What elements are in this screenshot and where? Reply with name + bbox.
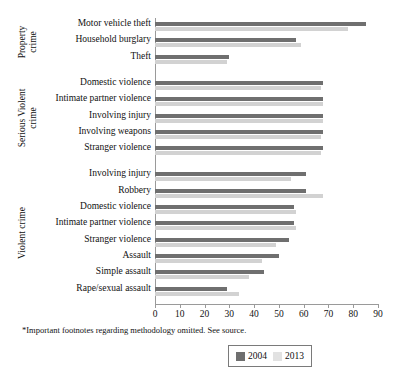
bar-2013 <box>155 60 227 64</box>
bar-row <box>155 36 378 52</box>
bar-2013 <box>155 43 301 47</box>
bar-row <box>155 144 378 160</box>
x-tick <box>254 304 255 308</box>
x-tick <box>180 304 181 308</box>
bar-row <box>155 170 378 186</box>
bar-row <box>155 20 378 36</box>
category-label: Involving injury <box>0 168 151 179</box>
group-label-line: crime <box>28 73 39 163</box>
x-tick-label: 80 <box>343 309 363 319</box>
bar-2004 <box>155 55 229 59</box>
bar-row <box>155 112 378 128</box>
bar-2013 <box>155 194 323 198</box>
bar-2004 <box>155 172 306 176</box>
x-tick-label: 20 <box>195 309 215 319</box>
bar-2013 <box>155 86 321 90</box>
bar-row <box>155 187 378 203</box>
bar-2013 <box>155 275 249 279</box>
bar-2004 <box>155 270 264 274</box>
legend-label-2013: 2013 <box>285 351 304 361</box>
legend-item-2004: 2004 <box>236 351 267 361</box>
bar-2013 <box>155 292 239 296</box>
bar-2013 <box>155 177 291 181</box>
x-tick <box>155 304 156 308</box>
footnote: *Important footnotes regarding methodolo… <box>22 325 246 335</box>
bar-2004 <box>155 114 323 118</box>
x-tick-label: 30 <box>219 309 239 319</box>
x-tick-label: 90 <box>368 309 388 319</box>
bar-row <box>155 53 378 69</box>
x-tick-label: 60 <box>294 309 314 319</box>
category-label: Rape/sexual assault <box>0 283 151 294</box>
chart-figure: Motor vehicle theftHousehold burglaryThe… <box>0 0 403 381</box>
x-tick <box>378 304 379 308</box>
bar-2013 <box>155 102 323 106</box>
x-tick-label: 0 <box>145 309 165 319</box>
bar-2013 <box>155 27 348 31</box>
bar-2004 <box>155 97 323 101</box>
legend: 2004 2013 <box>228 345 312 367</box>
x-tick <box>353 304 354 308</box>
group-label-line: Violent crime <box>17 188 28 278</box>
bar-2004 <box>155 254 279 258</box>
x-tick <box>328 304 329 308</box>
legend-label-2004: 2004 <box>248 351 267 361</box>
x-tick <box>304 304 305 308</box>
bar-2013 <box>155 226 296 230</box>
x-tick <box>205 304 206 308</box>
x-tick <box>279 304 280 308</box>
x-tick <box>229 304 230 308</box>
bar-2004 <box>155 189 306 193</box>
bar-2004 <box>155 238 289 242</box>
group-label-line: Serious Violent <box>17 73 28 163</box>
bar-2013 <box>155 135 321 139</box>
bar-2004 <box>155 38 296 42</box>
bar-2013 <box>155 119 323 123</box>
bar-2004 <box>155 221 294 225</box>
bar-2004 <box>155 130 323 134</box>
bar-2004 <box>155 22 366 26</box>
legend-swatch-2013-icon <box>273 352 282 361</box>
bar-2004 <box>155 287 227 291</box>
legend-swatch-2004-icon <box>236 352 245 361</box>
bar-row <box>155 79 378 95</box>
x-axis-line <box>155 304 378 305</box>
group-label: Violent crime <box>17 188 43 278</box>
x-tick-label: 70 <box>318 309 338 319</box>
group-label: Serious Violentcrime <box>17 73 43 163</box>
bar-2013 <box>155 210 296 214</box>
bar-2013 <box>155 151 321 155</box>
bar-row <box>155 219 378 235</box>
legend-item-2013: 2013 <box>273 351 304 361</box>
bar-2004 <box>155 81 323 85</box>
bar-row <box>155 236 378 252</box>
bar-row <box>155 285 378 301</box>
bar-2013 <box>155 259 262 263</box>
bar-2004 <box>155 205 294 209</box>
bar-row <box>155 203 378 219</box>
bar-row <box>155 268 378 284</box>
x-tick-label: 10 <box>170 309 190 319</box>
bar-2013 <box>155 243 276 247</box>
x-tick-label: 50 <box>269 309 289 319</box>
x-tick-label: 40 <box>244 309 264 319</box>
bar-row <box>155 252 378 268</box>
bar-row <box>155 128 378 144</box>
bar-row <box>155 95 378 111</box>
bar-2004 <box>155 146 323 150</box>
